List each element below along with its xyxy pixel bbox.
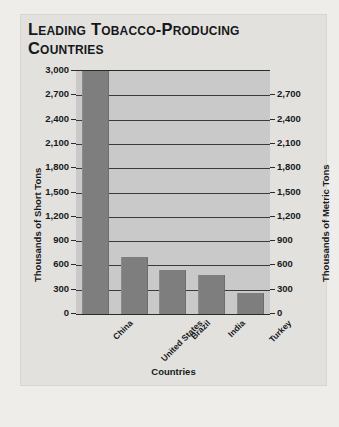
page-canvas: Leading Tobacco-Producing Countries 0300… — [0, 0, 339, 427]
y-axis-right-tick-mark — [270, 289, 275, 290]
y-axis-left-tick-mark — [71, 143, 76, 144]
y-axis-left-tick-mark — [71, 167, 76, 168]
plot-area — [76, 70, 270, 315]
x-axis-category-label: Turkey — [267, 318, 293, 344]
chart-panel: Leading Tobacco-Producing Countries 0300… — [20, 14, 327, 386]
y-axis-left-tick-mark — [71, 289, 76, 290]
y-axis-left-tick-mark — [71, 216, 76, 217]
y-axis-left-tick-mark — [71, 264, 76, 265]
x-axis-category-label: China — [111, 318, 135, 342]
y-axis-left: 03006009001,2001,5001,8002,1002,4002,700… — [20, 70, 76, 313]
bar — [82, 71, 109, 314]
y-axis-right-tick-mark — [270, 143, 275, 144]
y-axis-right-tick-mark — [270, 313, 275, 314]
y-axis-right-title: Thousands of Metric Tons — [320, 164, 331, 282]
x-axis-category-label: India — [226, 318, 247, 339]
bar-chart: 03006009001,2001,5001,8002,1002,4002,700… — [20, 14, 327, 386]
bar — [237, 293, 264, 314]
y-axis-left-tick-mark — [71, 240, 76, 241]
bar — [159, 270, 186, 314]
y-axis-right-tick-mark — [270, 167, 275, 168]
bar — [198, 275, 225, 314]
y-axis-right-tick-mark — [270, 240, 275, 241]
bars-group — [76, 71, 270, 314]
x-axis-category-labels: ChinaUnited StatesBrazilIndiaTurkey — [76, 314, 270, 374]
y-axis-right-tick-mark — [270, 216, 275, 217]
y-axis-right-tick-mark — [270, 119, 275, 120]
bar — [121, 257, 148, 314]
y-axis-right-tick-mark — [270, 94, 275, 95]
y-axis-left-tick-mark — [71, 70, 76, 71]
y-axis-right-tick-mark — [270, 192, 275, 193]
y-axis-right-tick-mark — [270, 264, 275, 265]
y-axis-left-tick-mark — [71, 94, 76, 95]
y-axis-right: 03006009001,2001,5001,8002,1002,4002,700 — [270, 70, 327, 313]
y-axis-left-tick-mark — [71, 192, 76, 193]
y-axis-left-title: Thousands of Short Tons — [32, 168, 43, 282]
x-axis-title: Countries — [20, 366, 327, 377]
y-axis-left-tick-mark — [71, 119, 76, 120]
